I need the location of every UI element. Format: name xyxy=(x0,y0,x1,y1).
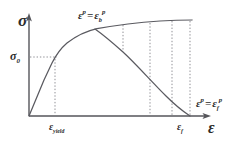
eps-p-b-equals: = xyxy=(86,9,94,21)
dotted-guides-group xyxy=(30,21,190,115)
axes-group xyxy=(26,13,211,119)
sigma-zero-subscript: 0 xyxy=(16,57,19,65)
softening-branch-curve xyxy=(95,29,190,116)
stress-strain-diagram xyxy=(0,0,238,149)
eps-f-subscript: f xyxy=(181,128,183,134)
eps-p-b-rhs-superscript: p xyxy=(102,8,105,15)
eps-f-label: εf xyxy=(177,122,183,135)
eps-p-f-rhs-superscript: p xyxy=(219,96,222,103)
eps-p-b-rhs-subscript: b xyxy=(99,16,102,23)
hardening-branch-label: εp=εbp xyxy=(78,9,105,23)
hardening-envelope-curve xyxy=(29,20,192,116)
sigma-zero-label: σ0 xyxy=(10,50,20,65)
eps-yield-subscript: yield xyxy=(53,128,64,134)
eps-p-f-equals: = xyxy=(204,97,212,109)
eps-yield-label: εyield xyxy=(49,122,64,135)
y-axis-label: σ xyxy=(18,12,27,29)
eps-p-f-rhs-subscript: f xyxy=(217,104,219,111)
x-axis-label: ε xyxy=(208,120,215,136)
curves-group xyxy=(29,20,192,116)
softening-branch-label: εp=εfp xyxy=(196,97,222,111)
